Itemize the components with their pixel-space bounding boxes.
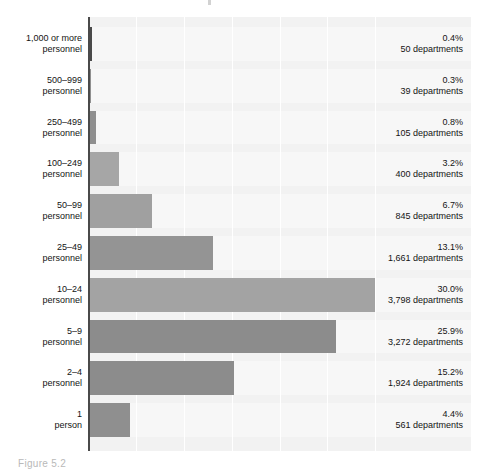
value-count: 845 departments: [395, 211, 463, 222]
value-percent: 6.7%: [395, 200, 463, 211]
category-label: 5–9personnel: [0, 326, 82, 348]
value-label: 0.4%50 departments: [400, 33, 463, 55]
bar[interactable]: [88, 278, 375, 312]
category-label-line1: 10–24: [0, 284, 82, 295]
category-label-line1: 1,000 or more: [0, 33, 82, 44]
category-label-line1: 2–4: [0, 367, 82, 378]
category-label: 250–499personnel: [0, 117, 82, 139]
value-label: 0.8%105 departments: [395, 117, 463, 139]
figure-container: 1,000 or morepersonnel0.4%50 departments…: [0, 0, 485, 471]
bar[interactable]: [88, 152, 119, 186]
bar-chart: 1,000 or morepersonnel0.4%50 departments…: [0, 17, 471, 451]
category-label: 50–99personnel: [0, 200, 82, 222]
category-label-line1: 50–99: [0, 200, 82, 211]
category-label-line2: personnel: [0, 44, 82, 55]
value-count: 3,272 departments: [388, 337, 463, 348]
category-label-line2: personnel: [0, 128, 82, 139]
category-label: 1person: [0, 409, 82, 431]
value-label: 6.7%845 departments: [395, 200, 463, 222]
value-percent: 30.0%: [388, 284, 463, 295]
bar[interactable]: [88, 236, 213, 270]
category-label: 100–249personnel: [0, 158, 82, 180]
category-label-line1: 5–9: [0, 326, 82, 337]
value-percent: 25.9%: [388, 326, 463, 337]
category-axis-spine: [88, 17, 90, 451]
value-label: 3.2%400 departments: [395, 158, 463, 180]
value-label: 30.0%3,798 departments: [388, 284, 463, 306]
value-count: 1,661 departments: [388, 253, 463, 264]
bar[interactable]: [88, 403, 130, 437]
value-percent: 0.4%: [400, 33, 463, 44]
category-label-line2: personnel: [0, 378, 82, 389]
category-label: 500–999personnel: [0, 75, 82, 97]
value-percent: 0.3%: [400, 75, 463, 86]
category-label: 25–49personnel: [0, 242, 82, 264]
category-label-line1: 500–999: [0, 75, 82, 86]
figure-caption: Figure 5.2: [18, 458, 66, 470]
category-label: 2–4personnel: [0, 367, 82, 389]
category-label-line2: personnel: [0, 86, 82, 97]
value-percent: 0.8%: [395, 117, 463, 128]
value-label: 15.2%1,924 departments: [388, 367, 463, 389]
category-label-line2: personnel: [0, 337, 82, 348]
value-count: 50 departments: [400, 44, 463, 55]
value-percent: 3.2%: [395, 158, 463, 169]
category-label-line2: person: [0, 420, 82, 431]
value-count: 3,798 departments: [388, 295, 463, 306]
value-percent: 13.1%: [388, 242, 463, 253]
category-label: 1,000 or morepersonnel: [0, 33, 82, 55]
bar[interactable]: [88, 194, 152, 228]
category-label-line2: personnel: [0, 211, 82, 222]
gridline: [280, 17, 281, 451]
value-count: 400 departments: [395, 169, 463, 180]
gridline: [327, 17, 328, 451]
category-label: 10–24personnel: [0, 284, 82, 306]
value-label: 13.1%1,661 departments: [388, 242, 463, 264]
value-count: 39 departments: [400, 86, 463, 97]
value-label: 4.4%561 departments: [395, 409, 463, 431]
category-label-line1: 1: [0, 409, 82, 420]
value-label: 0.3%39 departments: [400, 75, 463, 97]
value-label: 25.9%3,272 departments: [388, 326, 463, 348]
value-percent: 15.2%: [388, 367, 463, 378]
scan-artifact-speck: [208, 0, 211, 5]
category-label-line1: 250–499: [0, 117, 82, 128]
gridline: [375, 17, 376, 451]
bar[interactable]: [88, 320, 336, 354]
category-label-line2: personnel: [0, 295, 82, 306]
category-label-line1: 100–249: [0, 158, 82, 169]
category-label-line2: personnel: [0, 253, 82, 264]
bar[interactable]: [88, 361, 234, 395]
category-label-line2: personnel: [0, 169, 82, 180]
value-percent: 4.4%: [395, 409, 463, 420]
value-count: 561 departments: [395, 420, 463, 431]
value-count: 105 departments: [395, 128, 463, 139]
category-label-line1: 25–49: [0, 242, 82, 253]
value-count: 1,924 departments: [388, 378, 463, 389]
